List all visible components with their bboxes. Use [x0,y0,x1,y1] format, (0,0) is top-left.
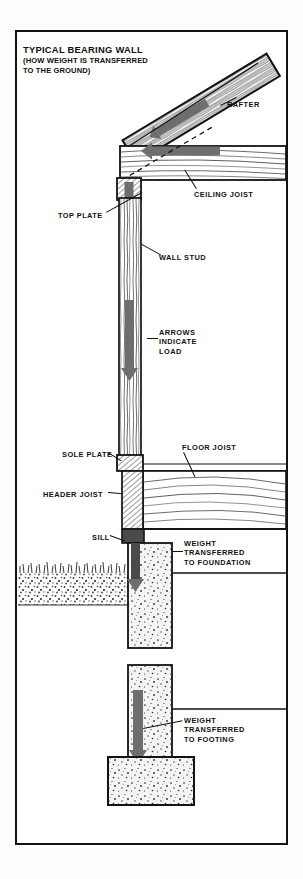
diagram-frame [15,30,288,845]
diagram-sheet: TYPICAL BEARING WALL (HOW WEIGHT IS TRAN… [0,0,303,879]
label-floor-joist: FLOOR JOIST [182,443,236,452]
label-ceiling-joist: CEILING JOIST [194,190,253,199]
title-subline-2: TO THE GROUND) [23,66,203,75]
leader-weight-to-foundation [172,551,183,552]
label-wall-stud: WALL STUD [159,253,206,262]
label-top-plate: TOP PLATE [58,211,103,220]
label-weight-to-foundation: WEIGHT TRANSFERRED TO FOUNDATION [184,539,251,567]
title-subline-1: (HOW WEIGHT IS TRANSFERRED [23,56,203,65]
leader-arrows-indicate-load [147,338,158,339]
title-block: TYPICAL BEARING WALL (HOW WEIGHT IS TRAN… [23,44,203,75]
label-rafter: RAFTER [227,100,260,109]
label-sill: SILL [92,533,110,542]
label-sole-plate: SOLE PLATE [62,450,112,459]
label-arrows-indicate-load: ARROWS INDICATE LOAD [159,328,197,356]
page-title: TYPICAL BEARING WALL [23,44,203,55]
label-header-joist: HEADER JOIST [43,490,103,499]
label-weight-to-footing: WEIGHT TRANSFERRED TO FOOTING [184,716,245,744]
